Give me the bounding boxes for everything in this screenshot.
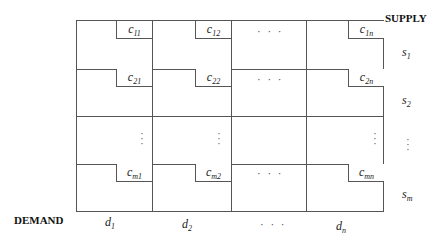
demand-index: n <box>342 226 346 235</box>
supply-index: 2 <box>407 100 411 109</box>
cost-cell-c1n: c1n <box>348 21 384 39</box>
cost-index: mn <box>364 172 374 181</box>
supply-s1: s1 <box>402 45 411 61</box>
cost-index: 21 <box>133 77 141 86</box>
horizontal-ellipsis: · · · <box>257 73 284 85</box>
vertical-ellipsis: ··· <box>405 137 411 152</box>
demand-d1: d1 <box>105 215 115 231</box>
cost-cell-cmn: cmn <box>348 164 384 182</box>
supply-s2: s2 <box>402 93 411 109</box>
demand-index: 2 <box>188 224 192 233</box>
cost-index: 22 <box>212 77 220 86</box>
cost-cell-cm2: cm2 <box>195 164 231 182</box>
cost-cell-c11: c11 <box>116 21 152 39</box>
cost-index: 1n <box>365 29 373 38</box>
cost-index: 12 <box>212 29 220 38</box>
demand-d2: d2 <box>182 217 192 233</box>
cost-index: m1 <box>132 172 142 181</box>
demand-header: DEMAND <box>14 214 64 226</box>
cost-index: m2 <box>211 172 221 181</box>
demand-index: 1 <box>111 222 115 231</box>
demand-dn: dn <box>336 219 346 235</box>
vertical-ellipsis: ··· <box>139 131 145 146</box>
horizontal-ellipsis: · · · <box>257 25 284 37</box>
supply-index: m <box>407 194 413 203</box>
cost-cell-c12: c12 <box>195 21 231 39</box>
horizontal-ellipsis: · · · <box>257 167 284 179</box>
cost-cell-cm1: cm1 <box>116 164 152 182</box>
cost-cell-c22: c22 <box>195 69 231 87</box>
supply-header: SUPPLY <box>385 12 427 24</box>
vertical-ellipsis: ··· <box>216 131 222 146</box>
cost-cell-c2n: c2n <box>348 69 384 87</box>
horizontal-ellipsis: · · · <box>260 218 287 230</box>
cost-index: 11 <box>133 29 140 38</box>
cost-index: 2n <box>365 77 373 86</box>
supply-sm: sm <box>402 187 412 203</box>
cost-cell-c21: c21 <box>116 69 152 87</box>
vertical-ellipsis: ··· <box>372 131 378 146</box>
row-divider <box>77 116 383 117</box>
transportation-tableau: c11 c12 · · · c1n c21 c22 · · · c2n ··· … <box>76 20 384 212</box>
supply-index: 1 <box>407 52 411 61</box>
